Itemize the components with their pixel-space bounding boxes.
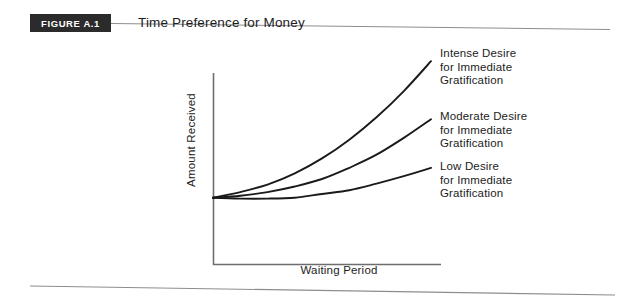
- annotation-line-2: for Immediate: [440, 124, 527, 138]
- annotation-line-1: Intense Desire: [440, 47, 516, 61]
- figure-panel: FIGURE A.1 Time Preference for Money Amo…: [0, 0, 638, 304]
- annotation-line-3: Gratification: [440, 74, 516, 88]
- chart-plot-area: [0, 0, 638, 304]
- y-axis-label: Amount Received: [185, 93, 197, 187]
- curve-annotation-moderate-desire: Moderate Desire for Immediate Gratificat…: [440, 110, 527, 151]
- x-axis-label: Waiting Period: [300, 264, 377, 276]
- curve-annotation-low-desire: Low Desire for Immediate Gratification: [440, 160, 512, 201]
- curve-annotation-intense-desire: Intense Desire for Immediate Gratificati…: [440, 47, 516, 88]
- annotation-line-3: Gratification: [440, 137, 527, 151]
- y-axis-label-text: Amount Received: [185, 93, 197, 187]
- annotation-line-2: for Immediate: [440, 174, 512, 188]
- curve-low-desire: [213, 168, 431, 199]
- annotation-line-1: Low Desire: [440, 160, 512, 174]
- annotation-line-3: Gratification: [440, 187, 512, 201]
- annotation-line-1: Moderate Desire: [440, 110, 527, 124]
- annotation-line-2: for Immediate: [440, 61, 516, 75]
